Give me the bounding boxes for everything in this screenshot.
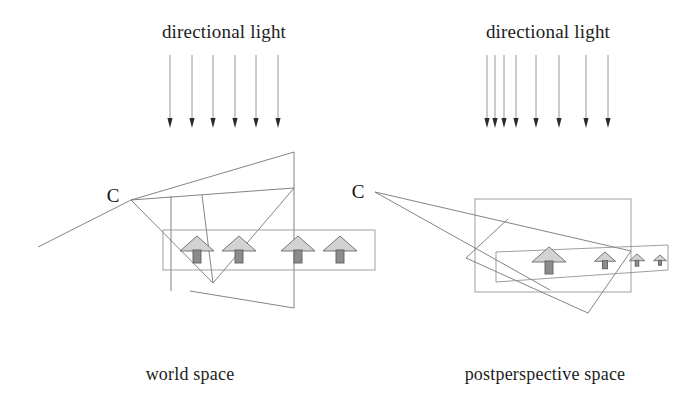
panel-world-space: directional light C world space <box>38 21 375 384</box>
house-body <box>545 261 553 274</box>
house-roof <box>323 236 357 251</box>
heading-directional-light-left: directional light <box>162 21 287 42</box>
light-ray-1 <box>484 55 489 128</box>
ray-arrowhead <box>253 118 258 128</box>
ray-arrowhead <box>605 118 610 128</box>
house-roof <box>594 252 615 261</box>
light-ray-4 <box>232 55 237 128</box>
house-2 <box>594 252 615 269</box>
house-roof <box>629 254 644 261</box>
light-rays-parallel <box>167 55 280 128</box>
ray-arrowhead <box>275 118 280 128</box>
caption-world-space: world space <box>146 364 235 384</box>
house-body <box>294 250 302 263</box>
camera-label-left: C <box>107 185 120 206</box>
ray-arrowhead <box>492 118 497 128</box>
house-body <box>193 250 201 263</box>
figure-root: directional light C world space directio… <box>0 0 699 409</box>
house-roof <box>654 255 667 261</box>
light-ray-8 <box>605 55 610 128</box>
panel-postperspective-space: directional light C postperspective spac… <box>352 21 668 384</box>
diagram-canvas: directional light C world space directio… <box>0 0 699 409</box>
light-ray-4 <box>513 55 518 128</box>
light-ray-1 <box>167 55 172 128</box>
frustum-edge-5 <box>213 188 294 283</box>
frustum-edge-2 <box>131 188 294 200</box>
warped-ground-strip <box>496 245 668 282</box>
camera-label-right: C <box>352 181 365 202</box>
light-ray-2 <box>492 55 497 128</box>
frustum-edge-2 <box>375 192 550 290</box>
house-3 <box>629 254 644 266</box>
heading-directional-light-right: directional light <box>486 21 611 42</box>
caption-postperspective-space: postperspective space <box>465 364 626 384</box>
ray-arrowhead <box>501 118 506 128</box>
house-body <box>235 250 243 263</box>
ray-arrowhead <box>533 118 538 128</box>
house-group-world <box>180 236 357 263</box>
light-ray-6 <box>556 55 561 128</box>
light-ray-3 <box>210 55 215 128</box>
house-4 <box>654 255 667 265</box>
house-body <box>336 250 344 263</box>
light-ray-5 <box>533 55 538 128</box>
house-1 <box>532 247 566 274</box>
ray-arrowhead <box>583 118 588 128</box>
house-roof <box>281 236 315 251</box>
house-1 <box>180 236 214 263</box>
light-rays-converged <box>484 55 610 128</box>
house-body <box>635 260 639 266</box>
ray-arrowhead <box>167 118 172 128</box>
light-ray-7 <box>583 55 588 128</box>
ray-arrowhead <box>232 118 237 128</box>
house-4 <box>323 236 357 263</box>
ray-arrowhead <box>513 118 518 128</box>
light-ray-5 <box>253 55 258 128</box>
house-group-postperspective <box>532 247 666 274</box>
house-body <box>603 261 608 269</box>
house-2 <box>222 236 256 263</box>
light-ray-2 <box>189 55 194 128</box>
ray-arrowhead <box>210 118 215 128</box>
house-3 <box>281 236 315 263</box>
light-ray-3 <box>501 55 506 128</box>
frustum-edge-4 <box>466 258 588 313</box>
ray-arrowhead <box>556 118 561 128</box>
house-roof <box>180 236 214 251</box>
house-body <box>658 260 661 265</box>
ray-arrowhead <box>189 118 194 128</box>
frustum-edge-1 <box>375 192 631 251</box>
light-ray-6 <box>275 55 280 128</box>
ray-arrowhead <box>484 118 489 128</box>
view-frustum-postperspective <box>375 192 631 313</box>
